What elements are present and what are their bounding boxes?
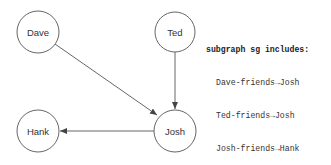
legend-item: Josh-friends→Hank [206, 143, 309, 154]
legend-item: Ted-friends→Josh [206, 110, 309, 121]
node-hank[interactable]: Hank [17, 110, 59, 152]
node-dave[interactable]: Dave [17, 11, 59, 53]
node-josh[interactable]: Josh [154, 110, 196, 152]
edge-dave-josh [55, 44, 157, 115]
node-label: Hank [27, 126, 49, 137]
legend-title: subgraph sg includes: [206, 44, 309, 55]
subgraph-legend: subgraph sg includes: Dave-friends→Josh … [206, 22, 309, 165]
legend-item: Dave-friends→Josh [206, 77, 309, 88]
node-ted[interactable]: Ted [155, 12, 195, 52]
node-label: Josh [165, 126, 185, 137]
node-label: Dave [27, 27, 49, 38]
node-label: Ted [167, 27, 182, 38]
